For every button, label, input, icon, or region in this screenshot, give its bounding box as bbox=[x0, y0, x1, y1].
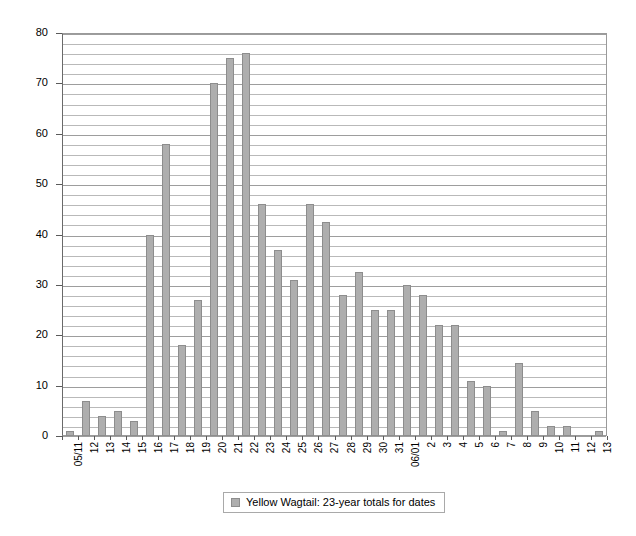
x-axis-tick-label: 05/11 bbox=[74, 442, 84, 466]
x-axis-tick-label: 9 bbox=[539, 442, 549, 448]
x-axis-tick-mark bbox=[238, 436, 239, 440]
x-axis-tick-label: 10 bbox=[555, 442, 565, 453]
x-axis-tick-mark bbox=[335, 436, 336, 440]
bar bbox=[258, 204, 266, 436]
x-axis-tick-mark bbox=[351, 436, 352, 440]
x-axis-tick-label: 21 bbox=[234, 442, 244, 453]
bar bbox=[322, 222, 330, 436]
x-axis-tick-label: 22 bbox=[250, 442, 260, 453]
x-axis-tick-mark bbox=[142, 436, 143, 440]
x-axis-tick-label: 17 bbox=[170, 442, 180, 453]
x-axis-tick-mark bbox=[591, 436, 592, 440]
y-axis-tick-label: 30 bbox=[36, 279, 48, 290]
bar bbox=[563, 426, 571, 436]
x-axis-tick-label: 11 bbox=[571, 442, 581, 452]
bar-chart: 01020304050607080 05/1112131415161718192… bbox=[0, 0, 636, 536]
y-axis-tick-label: 80 bbox=[36, 27, 48, 38]
x-axis-tick-mark bbox=[383, 436, 384, 440]
x-axis-tick-label: 24 bbox=[282, 442, 292, 453]
bar bbox=[226, 58, 234, 436]
x-axis-tick-label: 26 bbox=[314, 442, 324, 453]
x-axis-tick-label: 31 bbox=[395, 442, 405, 453]
x-axis-tick-mark bbox=[254, 436, 255, 440]
bar bbox=[162, 144, 170, 436]
bar bbox=[451, 325, 459, 436]
x-axis-tick-mark bbox=[511, 436, 512, 440]
bar bbox=[114, 411, 122, 436]
x-axis-tick-label: 3 bbox=[443, 442, 453, 448]
x-axis-tick-mark bbox=[222, 436, 223, 440]
x-axis-tick-label: 13 bbox=[106, 442, 116, 453]
x-axis-tick-mark bbox=[158, 436, 159, 440]
x-axis-tick-label: 27 bbox=[330, 442, 340, 453]
legend-label: Yellow Wagtail: 23-year totals for dates bbox=[246, 496, 435, 508]
x-axis-tick-mark bbox=[495, 436, 496, 440]
bar bbox=[355, 272, 363, 436]
x-axis-tick-label: 12 bbox=[587, 442, 597, 453]
bar bbox=[82, 401, 90, 436]
y-axis: 01020304050607080 bbox=[0, 0, 62, 470]
y-axis-tick-label: 40 bbox=[36, 229, 48, 240]
bar bbox=[371, 310, 379, 436]
y-axis-tick-label: 50 bbox=[36, 178, 48, 189]
y-axis-tick-label: 10 bbox=[36, 380, 48, 391]
x-axis-tick-label: 16 bbox=[154, 442, 164, 453]
x-axis-tick-mark bbox=[607, 436, 608, 440]
x-axis-tick-mark bbox=[367, 436, 368, 440]
x-axis-tick-label: 6 bbox=[491, 442, 501, 448]
x-axis-tick-label: 23 bbox=[266, 442, 276, 453]
x-axis-tick-label: 14 bbox=[122, 442, 132, 453]
x-axis-tick-mark bbox=[559, 436, 560, 440]
y-axis-tick-label: 20 bbox=[36, 329, 48, 340]
legend: Yellow Wagtail: 23-year totals for dates bbox=[223, 492, 445, 513]
x-axis-tick-mark bbox=[174, 436, 175, 440]
y-axis-tick-label: 70 bbox=[36, 77, 48, 88]
bar bbox=[146, 235, 154, 437]
x-axis-tick-label: 18 bbox=[186, 442, 196, 453]
bar bbox=[306, 204, 314, 436]
bar bbox=[130, 421, 138, 436]
x-axis-tick-label: 06/01 bbox=[411, 442, 421, 467]
x-axis-tick-mark bbox=[62, 436, 63, 440]
y-axis-tick-label: 60 bbox=[36, 128, 48, 139]
x-axis-tick-label: 12 bbox=[90, 442, 100, 453]
bar bbox=[290, 280, 298, 436]
bar bbox=[419, 295, 427, 436]
x-axis-tick-label: 30 bbox=[379, 442, 389, 453]
bar bbox=[194, 300, 202, 436]
bar bbox=[515, 363, 523, 436]
bar bbox=[242, 53, 250, 436]
x-axis-tick-label: 2 bbox=[427, 442, 437, 448]
y-axis-tick-label: 0 bbox=[42, 430, 48, 441]
bar bbox=[274, 250, 282, 436]
x-axis-tick-label: 28 bbox=[347, 442, 357, 453]
x-axis-tick-mark bbox=[126, 436, 127, 440]
bar bbox=[531, 411, 539, 436]
x-axis-tick-label: 20 bbox=[218, 442, 228, 453]
x-axis: 05/1112131415161718192021222324252627282… bbox=[62, 436, 607, 496]
bar bbox=[435, 325, 443, 436]
x-axis-tick-mark bbox=[302, 436, 303, 440]
legend-swatch-icon bbox=[231, 498, 240, 507]
x-axis-tick-mark bbox=[94, 436, 95, 440]
x-axis-tick-label: 19 bbox=[202, 442, 212, 453]
x-axis-tick-mark bbox=[479, 436, 480, 440]
x-axis-tick-mark bbox=[415, 436, 416, 440]
x-axis-tick-mark bbox=[575, 436, 576, 440]
x-axis-tick-label: 25 bbox=[298, 442, 308, 453]
bar bbox=[403, 285, 411, 436]
x-axis-tick-mark bbox=[431, 436, 432, 440]
x-axis-tick-label: 4 bbox=[459, 442, 469, 448]
bar bbox=[339, 295, 347, 436]
x-axis-tick-mark bbox=[543, 436, 544, 440]
bar bbox=[467, 381, 475, 436]
bar bbox=[483, 386, 491, 436]
x-axis-tick-label: 7 bbox=[507, 442, 517, 448]
x-axis-tick-label: 29 bbox=[363, 442, 373, 453]
x-axis-tick-mark bbox=[463, 436, 464, 440]
bar bbox=[210, 83, 218, 436]
x-axis-tick-mark bbox=[447, 436, 448, 440]
x-axis-tick-mark bbox=[318, 436, 319, 440]
x-axis-tick-mark bbox=[270, 436, 271, 440]
bar bbox=[547, 426, 555, 436]
